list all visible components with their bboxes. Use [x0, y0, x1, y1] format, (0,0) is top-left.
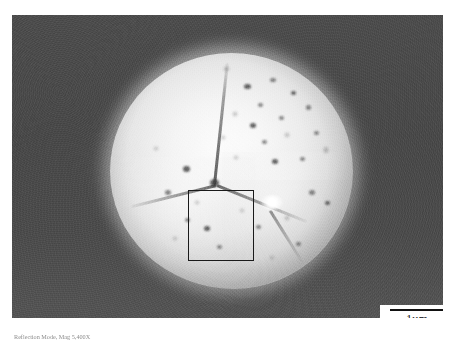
scale-bar-label: 1µm	[406, 312, 428, 318]
scale-bar-line	[390, 309, 444, 311]
figure-root: 1µm Reflection Mode, Mag 5,400X	[0, 0, 452, 343]
region-of-interest-rectangle[interactable]	[188, 190, 254, 261]
sem-micrograph-image: 1µm	[12, 15, 443, 318]
figure-caption: Reflection Mode, Mag 5,400X	[14, 333, 434, 341]
scale-bar: 1µm	[380, 305, 443, 318]
